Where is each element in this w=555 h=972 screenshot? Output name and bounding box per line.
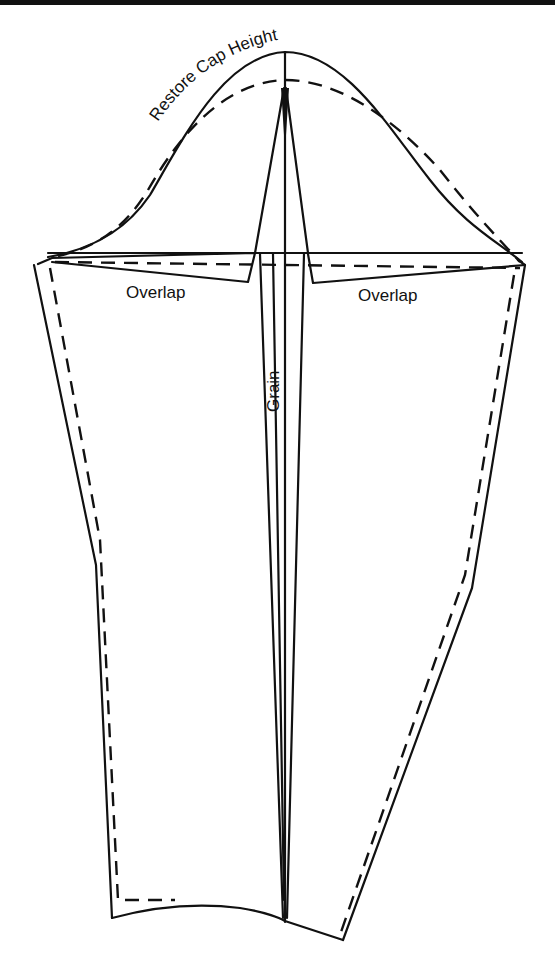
- right-underarm-seam: [343, 265, 525, 940]
- right-slash-upper: [286, 88, 308, 253]
- left-overlap-wedge: [38, 253, 255, 282]
- right-overlap-wedge: [308, 254, 525, 283]
- left-underarm-seam: [34, 265, 112, 918]
- right-underarm-seam-original: [340, 275, 514, 935]
- top-border-rule: [0, 0, 555, 5]
- diagram-canvas: Restore Cap Height Overlap Overlap Grain: [0, 0, 555, 972]
- left-slash-upper: [255, 88, 284, 253]
- right-slash-lower: [287, 254, 304, 918]
- original-biceps-line: [55, 262, 520, 268]
- overlap-right-label: Overlap: [358, 286, 418, 305]
- grain-label: Grain: [264, 370, 283, 412]
- sleeve-pattern-diagram: Restore Cap Height Overlap Overlap Grain: [0, 0, 555, 972]
- overlap-left-label: Overlap: [126, 283, 186, 302]
- left-underarm-seam-original: [50, 268, 175, 900]
- cap-apex-dart: [281, 88, 289, 150]
- hem-curve: [112, 905, 343, 940]
